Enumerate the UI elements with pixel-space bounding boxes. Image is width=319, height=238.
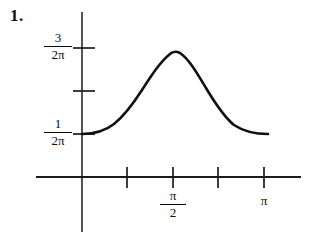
x-axis-label-pi-over-2-numerator: π — [160, 189, 186, 203]
problem-number-label: 1. — [10, 6, 24, 26]
y-axis-label-upper-denominator: 2π — [44, 48, 72, 62]
y-axis-label-lower-denominator: 2π — [44, 134, 72, 148]
x-axis-label-pi: π — [250, 193, 278, 209]
y-axis-label-upper: 3 2π — [44, 31, 72, 61]
y-axis-label-lower-numerator: 1 — [44, 117, 72, 131]
y-axis-label-upper-numerator: 3 — [44, 31, 72, 45]
y-axis-label-lower: 1 2π — [44, 117, 72, 147]
x-axis-label-pi-over-2-denominator: 2 — [160, 206, 186, 220]
x-axis-label-pi-over-2: π 2 — [160, 189, 186, 219]
figure-container: 1. 3 2π 1 2π π 2 π — [0, 0, 319, 238]
curve-path — [82, 52, 268, 134]
